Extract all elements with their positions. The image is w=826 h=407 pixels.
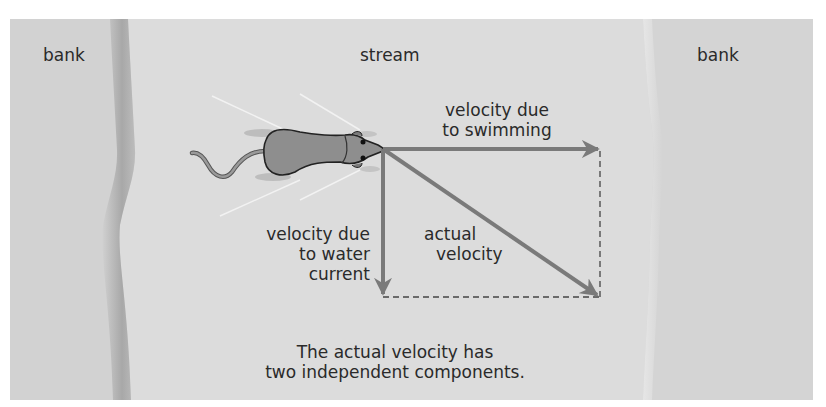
caption: The actual velocity has two independent … bbox=[260, 342, 530, 382]
right-bank bbox=[643, 19, 813, 400]
left-bank-label: bank bbox=[43, 45, 85, 65]
actual-velocity-label: actual velocity bbox=[424, 224, 524, 264]
right-bank-label: bank bbox=[697, 45, 739, 65]
current-velocity-label: velocity due to water current bbox=[235, 224, 370, 284]
stream-label: stream bbox=[360, 45, 420, 65]
swimming-velocity-label: velocity due to swimming bbox=[422, 100, 572, 140]
velocity-components-diagram: bank stream bank velocity due to swimmin… bbox=[0, 0, 826, 407]
